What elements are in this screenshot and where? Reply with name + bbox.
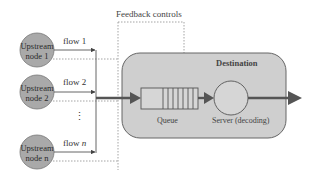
flow-1-label: flow 1 <box>63 37 86 46</box>
flow-1-var: 1 <box>82 36 87 46</box>
ellipsis-vertical: ⋮ <box>74 111 85 122</box>
flow-2-label: flow 2 <box>63 78 86 87</box>
upstream-node-n-label-line2: node n <box>20 154 54 163</box>
destination-label: Destination <box>216 59 258 68</box>
upstream-node-1-label-line1: Upstream <box>20 42 54 51</box>
queue-icon <box>141 88 198 109</box>
upstream-node-2-label-line2: node 2 <box>20 94 54 103</box>
upstream-node-n-label-line1: Upstream <box>20 144 54 153</box>
flow-2-prefix: flow <box>63 77 82 87</box>
server-label: Server (decoding) <box>212 117 270 125</box>
upstream-node-2-label-line1: Upstream <box>20 84 54 93</box>
flow-n-label: flow n <box>63 139 86 148</box>
upstream-node-1-label-line2: node 1 <box>20 52 54 61</box>
server-icon <box>214 81 248 115</box>
queue-label: Queue <box>157 117 178 125</box>
flow-n-var: n <box>82 138 87 148</box>
flow-1-prefix: flow <box>63 36 82 46</box>
flow-2-var: 2 <box>82 77 87 87</box>
feedback-controls-label: Feedback controls <box>116 10 182 19</box>
flow-n-prefix: flow <box>63 138 82 148</box>
